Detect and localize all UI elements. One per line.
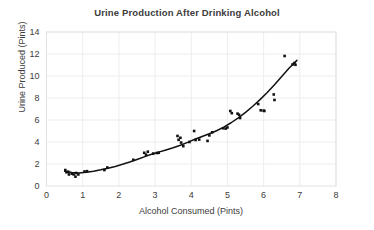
data-point-marker [257, 103, 260, 106]
data-point-marker [194, 139, 197, 142]
x-tick-label: 1 [80, 190, 85, 200]
data-point-marker [176, 135, 179, 138]
data-point-marker [145, 153, 148, 156]
data-point-marker [272, 93, 275, 96]
x-tick-label: 0 [44, 190, 49, 200]
data-point-marker [283, 55, 286, 58]
data-point-marker [188, 141, 191, 144]
x-tick-label: 3 [153, 190, 158, 200]
data-point-marker [68, 173, 71, 176]
y-tick-label: 14 [29, 27, 39, 37]
y-tick-labels: 02468101214 [29, 27, 39, 191]
data-point-marker [147, 150, 150, 153]
scatter-plot: 012345678 02468101214 [0, 0, 374, 230]
y-tick-label: 12 [29, 49, 39, 59]
data-point-marker [180, 141, 183, 144]
trend-line [65, 60, 297, 173]
y-tick-label: 4 [34, 137, 39, 147]
data-point-marker [67, 170, 70, 173]
data-point-marker [106, 166, 109, 169]
data-point-marker [211, 131, 214, 134]
data-point-marker [198, 138, 201, 141]
data-point-marker [193, 130, 196, 133]
data-point-marker [222, 127, 225, 130]
data-point-marker [179, 137, 182, 140]
grid-lines [47, 32, 337, 186]
data-point-marker [230, 112, 233, 115]
data-point-marker [273, 99, 276, 102]
data-point-marker [226, 126, 229, 129]
data-point-marker [77, 173, 80, 176]
data-point-marker [263, 110, 266, 113]
y-tick-label: 0 [34, 181, 39, 191]
data-point-marker [259, 109, 262, 112]
data-point-marker [206, 140, 209, 143]
data-point-marker [208, 134, 211, 137]
x-tick-label: 4 [189, 190, 194, 200]
data-point-marker [83, 170, 86, 173]
data-point-marker [103, 169, 106, 172]
data-point-marker [74, 175, 77, 178]
y-tick-label: 2 [34, 159, 39, 169]
data-point-marker [152, 152, 155, 155]
data-point-marker [238, 113, 241, 116]
data-point-marker [182, 145, 185, 148]
x-tick-label: 5 [225, 190, 230, 200]
x-axis-label: Alcohol Consumed (Pints) [46, 206, 336, 216]
x-tick-label: 7 [297, 190, 302, 200]
y-tick-label: 10 [29, 71, 39, 81]
y-axis-label: Urine Produced (Pints) [17, 0, 27, 137]
data-point-marker [239, 117, 242, 120]
y-tick-label: 6 [34, 115, 39, 125]
data-point-marker [132, 159, 135, 162]
chart-figure: Urine Production After Drinking Alcohol … [0, 0, 374, 230]
data-point-marker [86, 170, 89, 173]
data-points [64, 55, 297, 178]
x-tick-label: 8 [333, 190, 338, 200]
x-tick-labels: 012345678 [44, 190, 339, 200]
data-point-marker [294, 63, 297, 66]
data-point-marker [157, 151, 160, 154]
x-tick-label: 6 [261, 190, 266, 200]
x-tick-label: 2 [116, 190, 121, 200]
y-tick-label: 8 [34, 93, 39, 103]
trend-line-path [65, 60, 297, 173]
